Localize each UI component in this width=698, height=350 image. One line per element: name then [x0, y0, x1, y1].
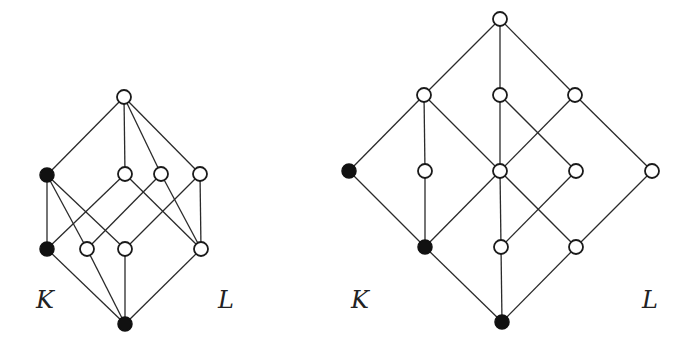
filled-node-b1	[342, 164, 356, 178]
lattice-figure	[0, 0, 698, 350]
edge-top-a1	[424, 19, 500, 95]
edge-b1-c1	[349, 171, 425, 247]
filled-node-l1	[40, 242, 54, 256]
edge-c3-bot	[502, 247, 576, 322]
edge-b3-c1	[425, 171, 500, 247]
edge-a3-b5	[575, 95, 652, 171]
open-node-b4	[569, 164, 583, 178]
open-node-l4	[194, 242, 208, 256]
open-node-b5	[645, 164, 659, 178]
edge-top-m4	[124, 97, 200, 174]
edge-top-m2	[124, 97, 125, 174]
left-lattice-diagram	[40, 90, 208, 331]
edge-b3-c2	[500, 171, 501, 247]
open-node-b2	[418, 164, 432, 178]
edge-m3-l2	[87, 174, 161, 249]
open-node-top	[117, 90, 131, 104]
edge-m1-l2	[47, 175, 87, 249]
open-node-c3	[569, 240, 583, 254]
edge-m4-l4	[200, 174, 201, 249]
open-node-a3	[568, 88, 582, 102]
edge-top-a3	[500, 19, 575, 95]
right-lattice-diagram	[342, 12, 659, 329]
edge-l4-bot	[125, 249, 201, 324]
edge-c1-bot	[425, 247, 502, 322]
left-lattice-label-L: L	[218, 288, 234, 312]
open-node-m2	[118, 167, 132, 181]
edge-l2-bot	[87, 249, 125, 324]
open-node-l3	[118, 242, 132, 256]
right-lattice-label-K: K	[351, 288, 369, 312]
open-node-b3	[493, 164, 507, 178]
open-node-l2	[80, 242, 94, 256]
edge-b5-c3	[576, 171, 652, 247]
edge-a1-b2	[424, 95, 425, 171]
left-lattice-label-K: K	[36, 288, 54, 312]
filled-node-m1	[40, 168, 54, 182]
open-node-a1	[417, 88, 431, 102]
edge-l1-bot	[47, 249, 125, 324]
open-node-m4	[193, 167, 207, 181]
filled-node-bot	[495, 315, 509, 329]
edge-a1-b1	[349, 95, 424, 171]
edge-c2-bot	[501, 247, 502, 322]
edge-m3-l4	[161, 174, 201, 249]
open-node-a2	[493, 88, 507, 102]
edge-top-m3	[124, 97, 161, 174]
right-lattice-label-L: L	[642, 288, 658, 312]
filled-node-c1	[418, 240, 432, 254]
edge-a1-b3	[424, 95, 500, 171]
filled-node-bot	[118, 317, 132, 331]
open-node-top	[493, 12, 507, 26]
open-node-c2	[494, 240, 508, 254]
open-node-m3	[154, 167, 168, 181]
edge-top-m1	[47, 97, 124, 175]
